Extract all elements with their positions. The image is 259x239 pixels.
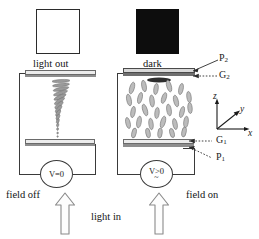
light-in-arrow-left	[54, 192, 76, 236]
caption-field-on: field on	[186, 190, 218, 201]
right-cell-top-plate	[123, 68, 195, 77]
label-top-polarizer: P2	[219, 53, 228, 64]
right-cell-director-field	[124, 82, 194, 138]
left-voltage-source: V=0	[40, 160, 73, 188]
left-voltage-label: V=0	[49, 170, 64, 179]
label-bottom-polarizer: P1	[216, 152, 225, 163]
left-bottom-polarizer-layer	[25, 144, 95, 146]
right-cell-wire-left	[117, 73, 118, 174]
left-cell-wire-bottom-left	[19, 174, 40, 175]
label-g1-sub: 1	[223, 138, 227, 146]
label-g2-sub: 2	[226, 73, 230, 81]
axis-triad	[206, 95, 254, 139]
left-cell-top-plate	[25, 70, 96, 78]
output-swatch-light	[36, 9, 80, 54]
left-cell-bottom-plate	[25, 139, 95, 147]
right-cell-bottom-plate	[123, 139, 194, 148]
right-top-polarizer-layer	[123, 73, 195, 76]
axis-label-x: x	[248, 128, 252, 138]
right-cell-wire-bottom-right	[172, 174, 195, 175]
label-p2-sub: 2	[225, 56, 229, 64]
caption-light-in: light in	[91, 212, 121, 223]
label-top-glass: G2	[219, 70, 230, 81]
right-bottom-polarizer-layer	[123, 144, 194, 147]
left-cell-wire-left	[19, 73, 20, 174]
caption-field-off: field off	[6, 190, 40, 201]
output-swatch-dark	[136, 9, 179, 54]
right-voltage-source: V>0 ~	[140, 160, 173, 188]
ac-source-symbol: ~	[154, 175, 158, 181]
right-cell-wire-bottom-left	[117, 174, 140, 175]
diagram-canvas: light out dark	[0, 0, 259, 239]
caption-light-out: light out	[33, 59, 68, 70]
axis-label-y: y	[240, 104, 244, 114]
left-cell-wire-bottom-right	[73, 174, 96, 175]
light-in-arrow-right	[148, 192, 170, 236]
label-p1-sub: 1	[222, 155, 226, 163]
left-cell-director-helix	[44, 78, 78, 140]
axis-label-z: z	[213, 91, 217, 101]
left-cell-wire-right	[95, 144, 96, 175]
